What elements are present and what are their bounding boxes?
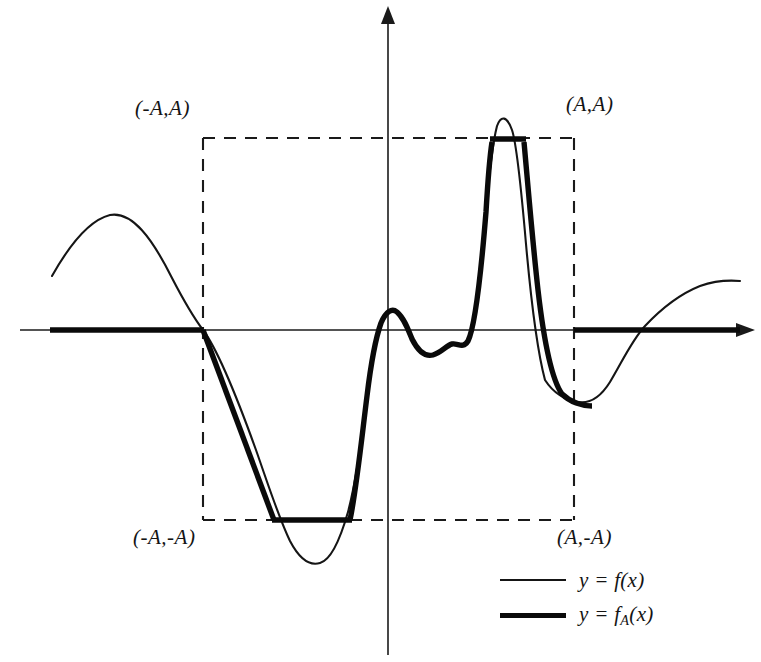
label-bottom-right-corner: (A,-A) — [557, 525, 612, 550]
legend-label-f: y = f(x) — [579, 568, 645, 593]
curve-fA-right-descent-segment — [524, 142, 592, 406]
legend-label-fA: y = fA(x) — [579, 602, 654, 629]
label-bottom-left-corner: (-A,-A) — [133, 525, 195, 550]
legend-swatch-thick-line-icon — [500, 613, 566, 618]
legend-swatch-thin-line-icon — [500, 579, 566, 581]
label-top-left-corner: (-A,A) — [135, 96, 190, 121]
label-top-right-corner: (A,A) — [566, 92, 613, 117]
legend-label-fA-subscript: A — [620, 612, 629, 628]
figure-container: (-A,A) (A,A) (-A,-A) (A,-A) y = f(x) y =… — [0, 0, 761, 662]
legend-label-fA-head: y = f — [579, 602, 620, 626]
curve-f-x — [52, 119, 740, 564]
legend-entry-f: y = f(x) — [500, 569, 654, 591]
legend-entry-fA: y = fA(x) — [500, 604, 654, 626]
curve-fA-central-oscillation-segment — [350, 142, 492, 520]
function-plot-canvas — [0, 0, 761, 662]
curve-fA-left-descent-segment — [203, 330, 274, 520]
y-axis-up-arrow-icon — [381, 6, 395, 24]
legend: y = f(x) y = fA(x) — [500, 569, 654, 626]
legend-label-fA-tail: (x) — [629, 602, 653, 626]
